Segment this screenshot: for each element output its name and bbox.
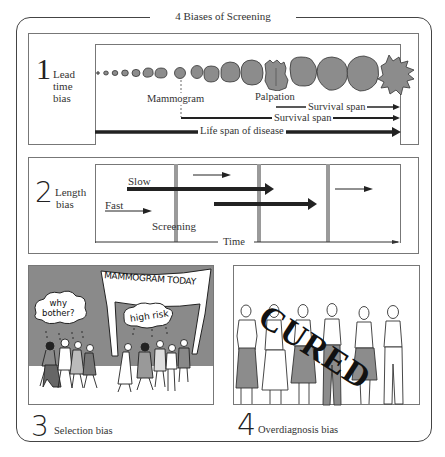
panel-4-number: 4 [237,410,256,440]
overdiagnosis-graphics [0,0,445,457]
panel-4-label: Overdiagnosis bias [258,424,338,436]
